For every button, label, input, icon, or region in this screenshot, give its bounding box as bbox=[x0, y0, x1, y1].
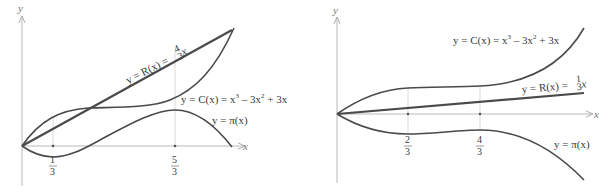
right-graph: y x y = C(x) = x3 – 3x2 + 3x y = R(x) = … bbox=[332, 4, 599, 183]
right-tick-4-3: 4 3 bbox=[476, 134, 484, 157]
svg-text:y = R(x) =: y = R(x) = bbox=[123, 54, 170, 87]
svg-text:3: 3 bbox=[477, 146, 482, 157]
right-x-axis-label: x bbox=[593, 108, 599, 120]
svg-text:y = C(x) = x3 – 3x2 + 3x: y = C(x) = x3 – 3x2 + 3x bbox=[453, 33, 560, 47]
right-cost-label: y = C(x) = x3 – 3x2 + 3x bbox=[453, 33, 560, 47]
right-revenue-line bbox=[337, 93, 584, 114]
left-y-axis-label: y bbox=[17, 2, 23, 14]
svg-text:1: 1 bbox=[50, 154, 55, 165]
left-revenue-line bbox=[22, 30, 232, 146]
svg-text:y = C(x) = x3 – 3x2 + 3x: y = C(x) = x3 – 3x2 + 3x bbox=[181, 92, 288, 106]
left-tick-5-3: 5 3 bbox=[171, 154, 179, 177]
svg-text:5: 5 bbox=[172, 154, 177, 165]
right-tick-2-3: 2 3 bbox=[404, 134, 412, 157]
svg-text:3: 3 bbox=[172, 166, 177, 177]
left-revenue-label: y = R(x) = 4 3 x bbox=[121, 40, 189, 87]
profit-diagrams: y x y = R(x) = 4 3 x y = C(x) = x3 – 3x2… bbox=[0, 0, 613, 193]
right-profit-label: y = π(x) bbox=[554, 138, 590, 151]
svg-text:x: x bbox=[580, 77, 587, 89]
svg-text:4: 4 bbox=[477, 134, 482, 145]
left-profit-label: y = π(x) bbox=[212, 114, 248, 127]
svg-text:3: 3 bbox=[50, 166, 55, 177]
left-x-axis-label: x bbox=[242, 140, 248, 152]
left-graph: y x y = R(x) = 4 3 x y = C(x) = x3 – 3x2… bbox=[17, 2, 288, 186]
right-y-axis-label: y bbox=[332, 4, 338, 16]
left-cost-label: y = C(x) = x3 – 3x2 + 3x bbox=[181, 92, 288, 106]
svg-text:y = R(x) =: y = R(x) = bbox=[521, 79, 568, 96]
svg-text:3: 3 bbox=[405, 146, 410, 157]
svg-text:2: 2 bbox=[405, 134, 410, 145]
right-profit-curve bbox=[337, 114, 584, 180]
